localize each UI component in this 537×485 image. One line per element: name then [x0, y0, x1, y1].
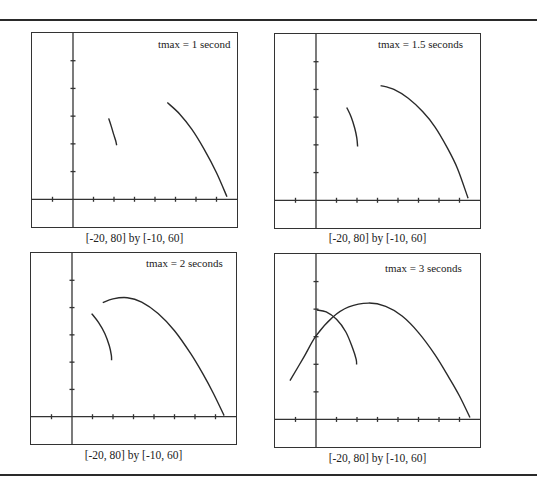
- bottom-rule: [0, 474, 537, 476]
- panel-3-title: tmax = 2 seconds: [146, 257, 223, 269]
- panel-3-caption: [-20, 80] by [-10, 60]: [30, 449, 237, 461]
- panel-4-title: tmax = 3 seconds: [385, 262, 462, 274]
- panel-1-caption: [-20, 80] by [-10, 60]: [31, 232, 238, 244]
- panel-1-title: tmax = 1 second: [158, 38, 231, 50]
- curve-trajectory: [290, 303, 470, 417]
- plot-canvas-1: [32, 33, 237, 227]
- curve-trajectory: [167, 103, 227, 197]
- plot-canvas-2: [275, 34, 480, 228]
- plot-canvas-4: [275, 254, 480, 447]
- plot-panel-3: [30, 252, 237, 445]
- plot-panel-2: [274, 33, 481, 229]
- curve-trajectory: [381, 86, 469, 199]
- curve-trajectory: [103, 298, 224, 416]
- panel-2-title: tmax = 1.5 seconds: [378, 38, 463, 50]
- panel-4-caption: [-20, 80] by [-10, 60]: [274, 452, 481, 464]
- top-rule: [0, 19, 537, 21]
- plot-panel-1: [31, 32, 238, 228]
- plot-panel-4: [274, 253, 481, 448]
- panel-2-caption: [-20, 80] by [-10, 60]: [274, 232, 481, 244]
- curve-arc-1: [109, 118, 117, 145]
- curve-arc-1: [317, 310, 357, 365]
- curve-arc-1: [347, 107, 358, 146]
- curve-arc-1: [92, 314, 112, 361]
- plot-canvas-3: [31, 253, 236, 444]
